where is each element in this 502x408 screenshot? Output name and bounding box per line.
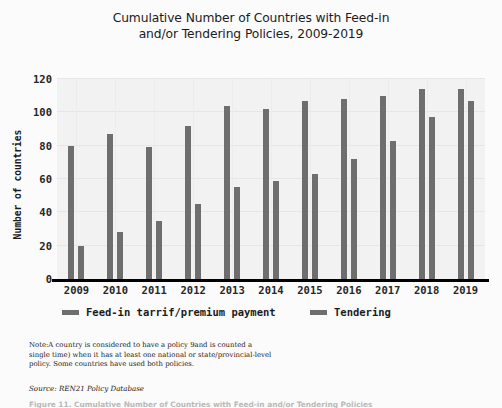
bar bbox=[224, 106, 230, 279]
y-tick-label: 40 bbox=[6, 206, 52, 218]
y-tick-label: 20 bbox=[6, 240, 52, 252]
bar bbox=[117, 232, 123, 279]
x-tick-label: 2011 bbox=[142, 284, 167, 296]
bar bbox=[68, 146, 74, 279]
chart-figure: Cumulative Number of Countries with Feed… bbox=[0, 0, 502, 408]
x-tick-label: 2014 bbox=[258, 284, 283, 296]
legend-swatch-icon bbox=[310, 310, 327, 315]
gridline-vertical bbox=[271, 79, 272, 279]
gridline-vertical bbox=[193, 79, 194, 279]
bar bbox=[263, 109, 269, 279]
chart-title-line-1: Cumulative Number of Countries with Feed… bbox=[0, 10, 502, 26]
chart-source: Source: REN21 Policy Database bbox=[29, 384, 144, 393]
bar bbox=[458, 89, 464, 279]
bar bbox=[351, 159, 357, 279]
bar bbox=[185, 126, 191, 279]
bar bbox=[380, 96, 386, 279]
bar bbox=[429, 117, 435, 279]
bar bbox=[390, 141, 396, 279]
y-tick-label: 100 bbox=[6, 106, 52, 118]
bar bbox=[195, 204, 201, 279]
bar bbox=[234, 187, 240, 279]
x-tick-label: 2017 bbox=[375, 284, 400, 296]
x-tick-label: 2015 bbox=[297, 284, 322, 296]
legend-entry[interactable]: Tendering bbox=[310, 306, 391, 318]
chart-note-line-2: single time) when it has at least one na… bbox=[29, 351, 349, 361]
y-tick-label: 60 bbox=[6, 173, 52, 185]
bar bbox=[107, 134, 113, 279]
chart-legend: Feed-in tarrif/premium paymentTendering bbox=[57, 306, 457, 324]
gridline-vertical bbox=[232, 79, 233, 279]
x-tick-label: 2013 bbox=[219, 284, 244, 296]
x-tick-label: 2016 bbox=[336, 284, 361, 296]
figure-caption: Figure 11. Cumulative Number of Countrie… bbox=[29, 400, 489, 408]
x-tick-label: 2012 bbox=[181, 284, 206, 296]
y-tick-label: 80 bbox=[6, 140, 52, 152]
x-tick-label: 2009 bbox=[64, 284, 89, 296]
chart-title: Cumulative Number of Countries with Feed… bbox=[0, 10, 502, 42]
bar bbox=[273, 181, 279, 279]
chart-title-line-2: and/or Tendering Policies, 2009-2019 bbox=[0, 26, 502, 42]
legend-entry[interactable]: Feed-in tarrif/premium payment bbox=[62, 306, 276, 318]
gridline-vertical bbox=[76, 79, 77, 279]
plot-area bbox=[57, 79, 485, 279]
legend-swatch-icon bbox=[62, 310, 79, 315]
x-tick-label: 2018 bbox=[414, 284, 439, 296]
chart-note-line-3: policy. Some countries have used both po… bbox=[29, 360, 349, 370]
x-axis-line bbox=[52, 279, 489, 282]
bar bbox=[419, 89, 425, 279]
gridline-vertical bbox=[154, 79, 155, 279]
gridline-vertical bbox=[115, 79, 116, 279]
bar bbox=[78, 246, 84, 279]
y-tick-label: 0 bbox=[6, 273, 52, 285]
bar bbox=[312, 174, 318, 279]
bar bbox=[341, 99, 347, 279]
bar bbox=[156, 221, 162, 279]
legend-label: Tendering bbox=[334, 306, 391, 318]
x-axis-ticks: 2009201020112012201320142015201620172018… bbox=[57, 284, 485, 300]
x-tick-label: 2010 bbox=[103, 284, 128, 296]
chart-note: Note:A country is considered to have a p… bbox=[29, 341, 349, 370]
bar bbox=[146, 147, 152, 279]
y-tick-label: 120 bbox=[6, 73, 52, 85]
x-tick-label: 2019 bbox=[453, 284, 478, 296]
legend-label: Feed-in tarrif/premium payment bbox=[86, 306, 276, 318]
gridline-vertical bbox=[310, 79, 311, 279]
chart-note-line-1: Note:A country is considered to have a p… bbox=[29, 341, 349, 351]
bar bbox=[468, 101, 474, 279]
bar bbox=[302, 101, 308, 279]
